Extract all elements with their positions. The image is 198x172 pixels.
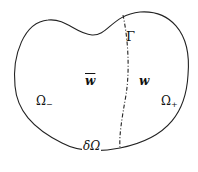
w-bar-label: w xyxy=(85,75,95,87)
omega-minus-label: Ω− xyxy=(36,95,53,109)
w-label: w xyxy=(139,75,149,87)
boundary-label: δΩ xyxy=(82,140,101,152)
omega-plus-label: Ω+ xyxy=(161,95,178,109)
domain-boundary xyxy=(15,12,189,151)
gamma-label: Γ xyxy=(126,30,135,43)
domain-diagram: Γ w w Ω− Ω+ δΩ xyxy=(0,0,198,172)
